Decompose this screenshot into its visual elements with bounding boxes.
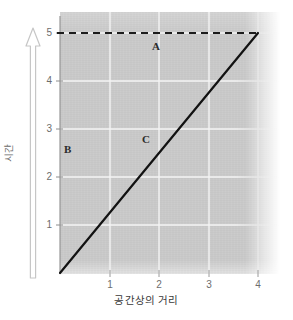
annotation-label-a: A bbox=[152, 40, 160, 52]
x-axis-title: 공간상의 거리 bbox=[0, 292, 293, 307]
plot-vector-layer bbox=[0, 0, 293, 320]
y-tick-label-2: 2 bbox=[38, 171, 52, 182]
x-tick-label-3: 3 bbox=[201, 279, 217, 290]
y-tick-label-5: 5 bbox=[38, 27, 52, 38]
x-tick-label-1: 1 bbox=[102, 279, 118, 290]
annotation-label-b: B bbox=[64, 143, 71, 155]
y-tick-label-4: 4 bbox=[38, 75, 52, 86]
y-tick-label-1: 1 bbox=[38, 219, 52, 230]
y-tick-label-3: 3 bbox=[38, 123, 52, 134]
annotation-label-c: C bbox=[142, 133, 150, 145]
figure-container: 5 4 3 2 1 1 2 3 4 공간상의 거리 시간 A B C bbox=[0, 0, 293, 320]
x-tick-label-4: 4 bbox=[250, 279, 266, 290]
x-tick-label-2: 2 bbox=[151, 279, 167, 290]
time-direction-arrow bbox=[26, 28, 40, 278]
y-axis-title: 시간 bbox=[1, 123, 15, 183]
